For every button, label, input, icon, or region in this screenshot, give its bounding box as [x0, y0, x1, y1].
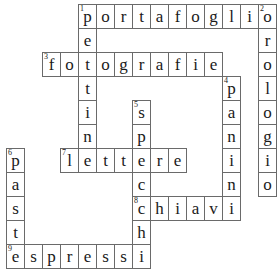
crossword-cell[interactable]: g	[204, 4, 223, 29]
crossword-cell[interactable]: o	[186, 4, 205, 29]
cell-letter: s	[25, 246, 42, 268]
crossword-cell[interactable]: r	[150, 148, 169, 173]
cell-letter: g	[115, 54, 132, 76]
crossword-cell[interactable]: t	[114, 148, 133, 173]
cell-letter: i	[133, 246, 150, 268]
crossword-cell[interactable]: o	[258, 172, 277, 197]
crossword-cell[interactable]: v	[204, 196, 223, 221]
crossword-cell[interactable]: 7l	[60, 148, 79, 173]
cell-letter: o	[97, 54, 114, 76]
crossword-cell[interactable]: l	[258, 76, 277, 101]
crossword-cell[interactable]: t	[6, 220, 25, 245]
crossword-cell[interactable]: g	[114, 52, 133, 77]
crossword-cell[interactable]: e	[78, 28, 97, 53]
crossword-cell[interactable]: 6p	[6, 148, 25, 173]
cell-letter: e	[169, 150, 186, 172]
crossword-cell[interactable]: t	[78, 52, 97, 77]
crossword-cell[interactable]: r	[132, 52, 151, 77]
crossword-cell[interactable]: e	[78, 148, 97, 173]
cell-letter: o	[259, 6, 276, 28]
crossword-cell[interactable]: o	[258, 52, 277, 77]
cell-letter: f	[169, 6, 186, 28]
cell-letter: r	[133, 54, 150, 76]
crossword-cell[interactable]: s	[96, 244, 115, 269]
crossword-cell[interactable]: i	[240, 4, 259, 29]
crossword-cell[interactable]: i	[132, 244, 151, 269]
crossword-cell[interactable]: e	[78, 244, 97, 269]
cell-letter: p	[223, 78, 240, 100]
cell-letter: p	[79, 6, 96, 28]
cell-letter: c	[133, 174, 150, 196]
cell-letter: i	[259, 150, 276, 172]
crossword-cell[interactable]: e	[204, 52, 223, 77]
cell-letter: a	[187, 198, 204, 220]
crossword-cell[interactable]: a	[222, 100, 241, 125]
crossword-cell[interactable]: n	[78, 124, 97, 149]
crossword-cell[interactable]: i	[186, 52, 205, 77]
cell-letter: t	[133, 6, 150, 28]
crossword-cell[interactable]: 2o	[258, 4, 277, 29]
crossword-cell[interactable]: s	[24, 244, 43, 269]
crossword-cell[interactable]: g	[258, 124, 277, 149]
crossword-cell[interactable]: a	[6, 172, 25, 197]
crossword-cell[interactable]: 4p	[222, 76, 241, 101]
crossword-cell[interactable]: f	[168, 52, 187, 77]
crossword-cell[interactable]: h	[150, 196, 169, 221]
cell-letter: c	[133, 198, 150, 220]
crossword-cell[interactable]: r	[258, 28, 277, 53]
crossword-cell[interactable]: 1p	[78, 4, 97, 29]
cell-letter: p	[133, 126, 150, 148]
crossword-cell[interactable]: a	[150, 4, 169, 29]
crossword-cell[interactable]: n	[222, 172, 241, 197]
crossword-cell[interactable]: i	[258, 148, 277, 173]
cell-letter: o	[61, 54, 78, 76]
crossword-cell[interactable]: i	[222, 148, 241, 173]
crossword-cell[interactable]: t	[78, 76, 97, 101]
crossword-cell[interactable]: o	[96, 4, 115, 29]
cell-letter: a	[7, 174, 24, 196]
cell-letter: o	[259, 54, 276, 76]
cell-letter: f	[169, 54, 186, 76]
crossword-cell[interactable]: a	[150, 52, 169, 77]
crossword-cell[interactable]: f	[168, 4, 187, 29]
crossword-cell[interactable]: t	[96, 148, 115, 173]
crossword-cell[interactable]: 3f	[42, 52, 61, 77]
crossword-cell[interactable]: l	[222, 4, 241, 29]
crossword-cell[interactable]: h	[132, 220, 151, 245]
crossword-cell[interactable]: o	[96, 52, 115, 77]
crossword-cell[interactable]: s	[114, 244, 133, 269]
cell-letter: f	[43, 54, 60, 76]
crossword-cell[interactable]: t	[132, 4, 151, 29]
crossword-cell[interactable]: r	[114, 4, 133, 29]
cell-letter: e	[79, 30, 96, 52]
crossword-cell[interactable]: c	[132, 172, 151, 197]
cell-letter: s	[97, 246, 114, 268]
crossword-cell[interactable]: o	[60, 52, 79, 77]
crossword-cell[interactable]: r	[60, 244, 79, 269]
cell-letter: i	[223, 150, 240, 172]
cell-letter: l	[259, 78, 276, 100]
crossword-cell[interactable]: e	[168, 148, 187, 173]
crossword-cell[interactable]: p	[42, 244, 61, 269]
crossword-cell[interactable]: o	[258, 100, 277, 125]
crossword-cell[interactable]: a	[186, 196, 205, 221]
cell-letter: t	[7, 222, 24, 244]
cell-letter: e	[133, 150, 150, 172]
crossword-cell[interactable]: n	[222, 124, 241, 149]
crossword-cell[interactable]: e	[132, 148, 151, 173]
cell-letter: t	[97, 150, 114, 172]
crossword-cell[interactable]: p	[132, 124, 151, 149]
cell-letter: s	[7, 198, 24, 220]
crossword-cell[interactable]: i	[222, 196, 241, 221]
cell-letter: r	[61, 246, 78, 268]
crossword-cell[interactable]: 8c	[132, 196, 151, 221]
crossword-cell[interactable]: 9e	[6, 244, 25, 269]
crossword-cell[interactable]: 5s	[132, 100, 151, 125]
crossword-cell[interactable]: i	[168, 196, 187, 221]
crossword-cell[interactable]: i	[78, 100, 97, 125]
cell-letter: e	[79, 246, 96, 268]
cell-letter: i	[241, 6, 258, 28]
crossword-cell[interactable]: s	[6, 196, 25, 221]
cell-letter: t	[79, 54, 96, 76]
